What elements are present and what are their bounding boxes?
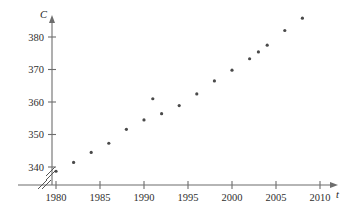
x-tick-label: 1990	[134, 192, 155, 203]
y-tick-label: 370	[28, 64, 44, 75]
y-tick-label: 360	[28, 97, 44, 108]
x-tick-label: 2010	[310, 192, 331, 203]
data-point	[301, 17, 304, 20]
data-point	[151, 97, 154, 100]
data-point	[283, 29, 286, 32]
data-point	[178, 104, 181, 107]
data-point	[257, 50, 260, 53]
y-axis-break-slash-2	[46, 167, 55, 176]
x-axis-label: t	[336, 189, 340, 200]
data-point	[142, 118, 145, 121]
x-tick-label: 1995	[178, 192, 199, 203]
chart-canvas: 340350360370380 198019851990199520002005…	[0, 0, 345, 212]
y-axis-tick-labels: 340350360370380	[28, 32, 44, 173]
y-axis-arrowhead	[49, 15, 55, 23]
data-point	[125, 128, 128, 131]
data-point	[195, 92, 198, 95]
y-axis-break-slash-1	[46, 171, 55, 180]
data-point-series	[54, 17, 304, 173]
x-axis-arrowhead	[330, 182, 338, 188]
x-tick-label: 1980	[46, 192, 67, 203]
y-tick-label: 380	[28, 32, 44, 43]
x-tick-label: 2000	[222, 192, 243, 203]
y-tick-label: 340	[28, 162, 44, 173]
data-point	[230, 69, 233, 72]
scatter-chart: 340350360370380 198019851990199520002005…	[0, 0, 345, 212]
data-point	[72, 161, 75, 164]
y-tick-label: 350	[28, 129, 44, 140]
data-point	[266, 44, 269, 47]
x-tick-label: 1985	[90, 192, 111, 203]
data-point	[90, 151, 93, 154]
data-point	[54, 170, 57, 173]
x-axis-tick-labels: 1980198519901995200020052010	[46, 192, 331, 203]
data-point	[160, 112, 163, 115]
x-tick-label: 2005	[266, 192, 287, 203]
data-point	[107, 142, 110, 145]
data-point	[248, 57, 251, 60]
data-point	[213, 79, 216, 82]
chart-axes	[18, 15, 338, 188]
y-axis-label: C	[40, 9, 48, 20]
